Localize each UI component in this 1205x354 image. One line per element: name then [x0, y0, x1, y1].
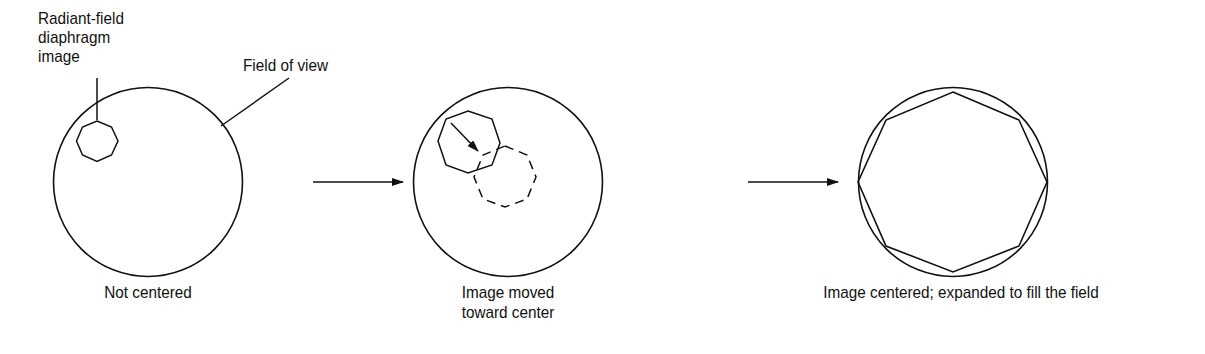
caption-line-1: Not centered — [58, 283, 238, 303]
diaphragm-image-label: Radiant-field diaphragm image — [38, 9, 124, 66]
diaphragm-label-line-1: Radiant-field — [38, 9, 124, 28]
diaphragm-image-octagon-expanded — [858, 92, 1047, 272]
caption-line-1: Image moved — [418, 283, 598, 303]
caption-line-2: toward center — [418, 303, 598, 323]
field-of-view-circle — [414, 88, 603, 277]
panel-not-centered — [54, 78, 290, 277]
caption-not-centered: Not centered — [58, 283, 238, 303]
diaphragm-image-octagon-moved-dashed — [474, 146, 536, 207]
caption-centered-expanded: Image centered; expanded to fill the fie… — [781, 283, 1141, 303]
diaphragm-label-line-2: diaphragm — [38, 28, 124, 47]
panel-moved-toward-center — [414, 88, 603, 277]
field-of-view-circle — [859, 88, 1048, 277]
movement-arrow — [451, 123, 478, 151]
diaphragm-image-octagon — [77, 121, 119, 162]
panel-centered-expanded — [858, 88, 1048, 277]
caption-line-1: Image centered; expanded to fill the fie… — [781, 283, 1141, 303]
field-of-view-circle — [54, 88, 243, 277]
field-of-view-leader-line — [221, 78, 289, 126]
diaphragm-label-line-3: image — [38, 47, 124, 66]
caption-moved-toward-center: Image moved toward center — [418, 283, 598, 323]
field-of-view-label: Field of view — [243, 56, 328, 75]
